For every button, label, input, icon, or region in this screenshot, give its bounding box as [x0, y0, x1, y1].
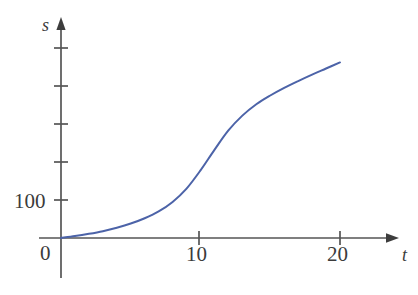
x-axis-tick-label-20: 20: [327, 244, 348, 265]
y-axis-label: s: [42, 16, 49, 34]
curve-series-s-of-t: [61, 62, 340, 238]
x-axis-tick-label-10: 10: [186, 244, 207, 265]
axis-group: [39, 17, 399, 278]
y-axis-arrow-icon: [56, 17, 65, 30]
y-axis-tick-label-100: 100: [14, 191, 46, 212]
origin-label: 0: [40, 243, 51, 264]
x-axis-arrow-icon: [386, 233, 399, 243]
chart-figure: 0 100 10 20 s t: [0, 0, 418, 295]
x-axis-label: t: [402, 246, 407, 264]
chart-canvas: [0, 0, 418, 295]
